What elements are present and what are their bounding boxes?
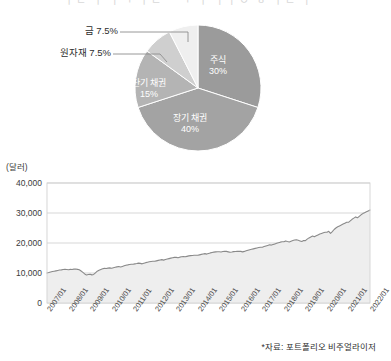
pie-callout-commodities: 원자재 7.5% bbox=[26, 47, 111, 59]
pie-label-long-term-bonds-name: 장기 채권 bbox=[155, 113, 225, 124]
pie-label-short-term-bonds: 단기 채권 15% bbox=[118, 78, 180, 100]
clipped-title: ㅣㄷ ㅣ ㅏㄱ ㅣㄹ ㅡㄱ ㅣ ㅏㅏㅇ ㅎ ㅣㄹ ㅏ bbox=[0, 0, 378, 9]
y-tick-0: 0 bbox=[2, 298, 42, 308]
clipped-title-text: ㅣㄷ ㅣ ㅏㄱ ㅣㄹ ㅡㄱ ㅣ ㅏㅏㅇ ㅎ ㅣㄹ ㅏ bbox=[0, 0, 378, 7]
y-tick-10000: 10,000 bbox=[2, 268, 42, 278]
pie-label-short-term-bonds-value: 15% bbox=[118, 89, 180, 100]
pie-label-long-term-bonds: 장기 채권 40% bbox=[155, 113, 225, 135]
pie-label-stocks: 주식 30% bbox=[193, 55, 243, 77]
y-tick-20000: 20,000 bbox=[2, 238, 42, 248]
y-tick-40000: 40,000 bbox=[2, 178, 42, 188]
pie-label-short-term-bonds-name: 단기 채권 bbox=[118, 78, 180, 89]
pie-label-stocks-name: 주식 bbox=[193, 55, 243, 66]
line-chart: (달러) 010,00020,00030,00040,000 2007/0120… bbox=[0, 160, 378, 340]
pie-label-stocks-value: 30% bbox=[193, 66, 243, 77]
pie-chart: 금 7.5% 원자재 7.5% 주식 30% 장기 채권 40% 단기 채권 1… bbox=[0, 10, 378, 160]
line-chart-svg bbox=[0, 160, 378, 340]
pie-label-long-term-bonds-value: 40% bbox=[155, 124, 225, 135]
source-note: *자료: 포트폴리오 비주얼라이저 bbox=[262, 340, 376, 352]
pie-callout-gold: 금 7.5% bbox=[44, 25, 118, 37]
y-tick-30000: 30,000 bbox=[2, 208, 42, 218]
